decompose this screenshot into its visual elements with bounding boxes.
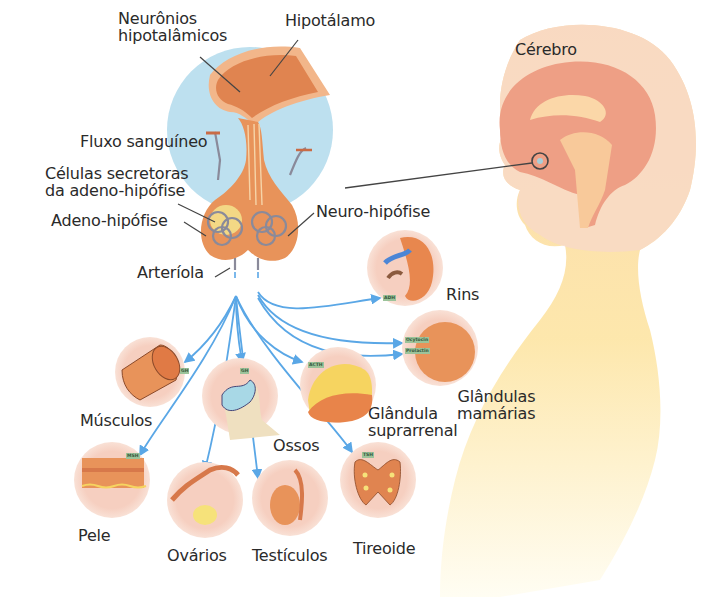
label-neuronios-hipotalamicos: Neurônios hipotalâmicos (118, 10, 227, 44)
label-tireoide: Tireoide (353, 540, 415, 557)
label-adeno-hipofise: Adeno-hipófise (51, 212, 168, 229)
label-testiculos: Testículos (252, 547, 327, 564)
label-rins: Rins (446, 286, 479, 303)
hormone-tag-tsh: TSH (362, 452, 374, 458)
label-celulas-secretoras: Células secretoras da adeno-hipófise (45, 165, 189, 199)
label-arteriola: Arteríola (137, 264, 204, 281)
hormone-tag-ocytocin: Ocytocin (405, 337, 429, 343)
label-fluxo-sanguineo: Fluxo sanguíneo (80, 133, 207, 150)
hormone-tag-gh-ossos: GH (240, 368, 249, 374)
organ-circles (74, 230, 478, 538)
label-neuro-hipofise: Neuro-hipófise (316, 203, 430, 220)
endocrine-diagram: Neurônios hipotalâmicos Hipotálamo Fluxo… (0, 0, 716, 597)
hormone-tag-msh: MSH (126, 453, 140, 459)
label-pele: Pele (78, 527, 110, 544)
label-glandula-suprarrenal: Glândula suprarrenal (368, 405, 458, 439)
hormone-tag-acth: ACTH (308, 362, 324, 368)
hormone-tag-adh: ADH (383, 295, 396, 301)
diagram-artwork (0, 0, 716, 597)
label-cerebro: Cérebro (515, 41, 577, 58)
label-musculos: Músculos (80, 412, 152, 429)
hormone-tag-prolactin: Prolactin (405, 348, 430, 354)
label-hipotalamo: Hipotálamo (285, 12, 375, 29)
label-ovarios: Ovários (167, 547, 227, 564)
hormone-tag-gh-musculos: GH (180, 368, 189, 374)
label-ossos: Ossos (273, 437, 319, 454)
label-glandulas-mamarias: Glândulas mamárias (457, 388, 535, 422)
